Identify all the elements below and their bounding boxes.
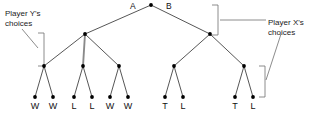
edges-to-leaves [35, 66, 253, 97]
node-depth2-3 [117, 64, 121, 68]
leader-player-x-lower [266, 34, 281, 80]
node-depth1-right [208, 32, 212, 36]
edge-a2-to-leaf3 [74, 66, 83, 97]
edges-left-subtree [44, 34, 119, 66]
leaf-label-6: W [121, 101, 135, 111]
bracket-player-x-upper [212, 5, 218, 35]
edge-a3-to-leaf5 [110, 66, 119, 97]
tree-graphic [0, 0, 320, 113]
player-x-annotation-line2: choices [268, 28, 304, 38]
node-leaf-8 [181, 95, 185, 99]
edge-b1-to-leaf8 [174, 66, 183, 97]
node-depth2-1 [42, 64, 46, 68]
node-depth2-4 [172, 64, 176, 68]
edge-b1-to-leaf7 [165, 66, 174, 97]
edge-label-b: B [166, 1, 172, 11]
edge-b2-to-leaf10 [244, 66, 253, 97]
edge-a3-to-leaf6 [119, 66, 128, 97]
player-y-annotation-line2: choices [5, 19, 41, 29]
player-y-annotation: Player Y's choices [5, 9, 41, 28]
leaf-label-5: W [103, 101, 117, 111]
bracket-player-y [38, 33, 44, 66]
edge-a1-to-leaf2 [44, 66, 53, 97]
leaf-label-9: T [228, 101, 242, 111]
node-leaf-5 [108, 95, 112, 99]
leader-player-y [22, 29, 38, 48]
edge-label-a: A [130, 1, 136, 11]
node-leaf-4 [90, 95, 94, 99]
node-leaf-7 [163, 95, 167, 99]
node-leaf-9 [233, 95, 237, 99]
edge-b-to-b2 [210, 34, 244, 66]
player-x-annotation: Player X's choices [268, 18, 304, 37]
edge-b2-to-leaf9 [235, 66, 244, 97]
leaf-label-10: L [246, 101, 260, 111]
leaf-label-7: T [158, 101, 172, 111]
edge-b-to-b1 [174, 34, 210, 66]
game-tree-diagram: A B Player Y's choices Player X's choice… [0, 0, 320, 113]
node-leaf-10 [251, 95, 255, 99]
node-leaf-2 [51, 95, 55, 99]
leaf-label-2: W [46, 101, 60, 111]
edges-root [85, 5, 210, 34]
node-leaf-3 [72, 95, 76, 99]
edge-a-to-a1 [44, 34, 85, 66]
player-y-annotation-line1: Player Y's [5, 9, 41, 19]
node-depth1-left [83, 32, 87, 36]
node-root [149, 3, 153, 7]
node-leaf-1 [33, 95, 37, 99]
edge-root-to-left [85, 5, 151, 34]
edge-a-to-a2-highlighted [83, 34, 85, 66]
leaf-label-1: W [28, 101, 42, 111]
edge-a2-to-leaf4 [83, 66, 92, 97]
node-depth2-5 [242, 64, 246, 68]
brackets [38, 5, 265, 97]
node-depth2-2 [81, 64, 85, 68]
bracket-player-x-lower [259, 66, 265, 97]
player-x-annotation-line1: Player X's [268, 18, 304, 28]
edge-a-to-a3 [85, 34, 119, 66]
nodes [33, 3, 255, 99]
edge-a1-to-leaf1 [35, 66, 44, 97]
leaf-label-3: L [67, 101, 81, 111]
node-leaf-6 [126, 95, 130, 99]
edges-right-subtree [174, 34, 244, 66]
leaf-label-8: L [176, 101, 190, 111]
leaf-label-4: L [85, 101, 99, 111]
edge-root-to-right [151, 5, 210, 34]
